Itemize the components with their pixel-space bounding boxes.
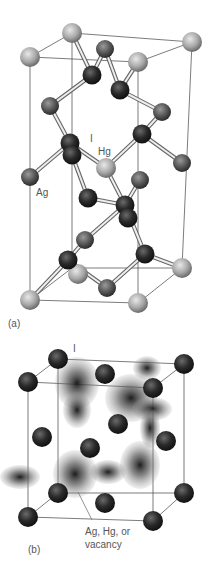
atom-dark: [83, 66, 102, 85]
atom-medium: [98, 279, 116, 297]
atom-light: [128, 52, 148, 72]
label-mercury: Hg: [98, 146, 111, 157]
atom-medium: [173, 154, 191, 172]
iodine-atom: [95, 364, 115, 384]
atom-light: [182, 32, 202, 52]
cell-edge: [72, 33, 192, 42]
atom-light: [20, 47, 40, 67]
atom-light: [172, 258, 192, 278]
iodine-atom: [143, 511, 163, 531]
iodine-atom: [108, 414, 128, 434]
iodine-atom: [80, 438, 100, 458]
atom-dark: [136, 245, 155, 264]
cation-density-cloud: [63, 392, 91, 428]
cation-density-cloud: [0, 465, 40, 489]
iodine-atom: [156, 431, 176, 451]
atom-medium: [153, 103, 171, 121]
crystal-structure-figure: (a) I Hg Ag I Ag, Hg, or vacancy (b): [0, 0, 209, 569]
label-iodine-a: I: [90, 133, 93, 144]
panel-b-structure: [0, 349, 194, 531]
cell-edge: [30, 300, 138, 303]
atom-medium: [96, 40, 114, 58]
atom-medium: [131, 171, 149, 189]
site-label-line2: vacancy: [85, 539, 122, 550]
site-pointer-line: [78, 492, 92, 520]
iodine-atom: [48, 483, 68, 503]
atom-light: [20, 290, 40, 310]
site-label-line1: Ag, Hg, or: [85, 526, 131, 537]
iodine-atom: [18, 507, 38, 527]
cation-density-cloud: [133, 356, 161, 380]
atom-medium: [76, 231, 94, 249]
panel-b-caption: (b): [28, 544, 40, 555]
iodine-atom: [174, 354, 194, 374]
atom-light: [62, 23, 82, 43]
panel-a-structure: [20, 23, 202, 313]
iodine-atom: [48, 349, 68, 369]
iodine-atom: [32, 427, 52, 447]
iodine-atom: [95, 493, 115, 513]
atom-dark: [59, 251, 78, 270]
atom-medium: [41, 97, 59, 115]
iodine-atom: [174, 483, 194, 503]
iodine-atom: [143, 378, 163, 398]
atom-light: [128, 293, 148, 313]
label-silver: Ag: [36, 187, 48, 198]
atom-dark: [119, 209, 138, 228]
atom-light: [96, 158, 116, 178]
cation-density-cloud: [90, 460, 126, 484]
cation-density-cloud: [120, 441, 160, 489]
iodine-atom: [18, 372, 38, 392]
atom-dark: [133, 125, 152, 144]
atom-dark: [111, 81, 130, 100]
atom-dark: [63, 146, 82, 165]
atom-dark: [79, 189, 98, 208]
atom-medium: [21, 168, 39, 186]
label-iodine-b: I: [73, 343, 76, 354]
panel-a-caption: (a): [8, 318, 20, 329]
